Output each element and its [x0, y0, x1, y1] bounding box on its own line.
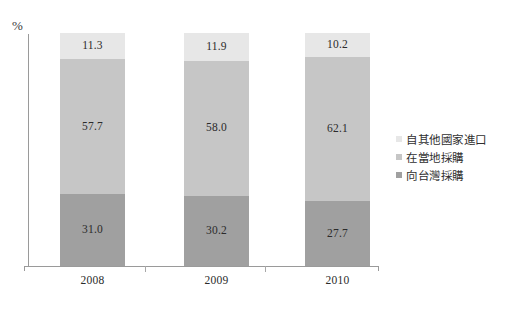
bar-segment-value: 11.3	[82, 40, 103, 52]
chart-legend: 自其他國家進口 在當地採購 向台灣採購	[396, 130, 516, 184]
bar-segment-taiwan[interactable]: 30.2	[184, 196, 249, 266]
legend-item-import[interactable]: 自其他國家進口	[396, 130, 516, 147]
bar-segment-import[interactable]: 11.3	[60, 33, 125, 59]
bar-segment-value: 27.7	[327, 228, 348, 240]
legend-swatch-icon	[396, 172, 402, 178]
legend-item-taiwan[interactable]: 向台灣採購	[396, 166, 516, 183]
bar-segment-local[interactable]: 62.1	[305, 57, 370, 202]
legend-item-label: 自其他國家進口	[406, 131, 487, 147]
bar-segment-import[interactable]: 10.2	[305, 33, 370, 57]
legend-item-label: 在當地採購	[406, 149, 464, 165]
x-axis-label-2009: 2009	[184, 274, 249, 286]
bar-group-2009[interactable]: 11.9 58.0 30.2	[184, 33, 249, 266]
bar-segment-value: 57.7	[82, 121, 103, 133]
stacked-bar[interactable]: 10.2 62.1 27.7	[305, 33, 370, 266]
bar-segment-import[interactable]: 11.9	[184, 33, 249, 61]
bar-segment-taiwan[interactable]: 31.0	[60, 194, 125, 266]
stacked-bar-chart: % 11.3 57.7 31.0 2008	[0, 0, 520, 309]
stacked-bar[interactable]: 11.9 58.0 30.2	[184, 33, 249, 266]
bar-segment-value: 31.0	[82, 224, 103, 236]
stacked-bar[interactable]: 11.3 57.7 31.0	[60, 33, 125, 266]
bar-segment-value: 11.9	[206, 41, 227, 53]
bar-segment-value: 30.2	[206, 225, 227, 237]
bar-segment-value: 10.2	[327, 39, 348, 51]
bar-segment-local[interactable]: 57.7	[60, 59, 125, 193]
bar-segment-local[interactable]: 58.0	[184, 61, 249, 196]
bar-segment-value: 62.1	[327, 123, 348, 135]
plot-area: 11.3 57.7 31.0 2008 11.9 58.0	[0, 0, 390, 309]
x-axis-label-2010: 2010	[305, 274, 370, 286]
legend-item-label: 向台灣採購	[406, 167, 464, 183]
bar-group-2008[interactable]: 11.3 57.7 31.0	[60, 33, 125, 266]
x-axis-label-2008: 2008	[60, 274, 125, 286]
bar-segment-taiwan[interactable]: 27.7	[305, 201, 370, 266]
legend-item-local[interactable]: 在當地採購	[396, 148, 516, 165]
legend-swatch-icon	[396, 136, 402, 142]
bar-group-2010[interactable]: 10.2 62.1 27.7	[305, 33, 370, 266]
legend-swatch-icon	[396, 154, 402, 160]
bar-segment-value: 58.0	[206, 122, 227, 134]
